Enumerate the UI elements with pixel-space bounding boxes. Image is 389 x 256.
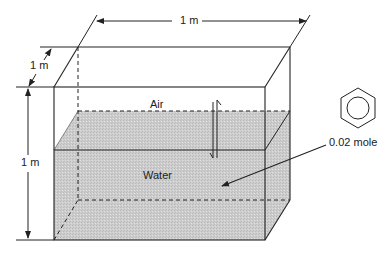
water-label: Water	[143, 170, 172, 181]
water-volume	[54, 111, 290, 240]
height-label: 1 m	[21, 157, 39, 168]
solute-amount-label: 0.02 mole	[329, 137, 377, 148]
tank-diagram: 1 m 1 m 1 m Air Water 0.02 mole	[0, 0, 389, 256]
width-label: 1 m	[180, 15, 198, 26]
diagram-graphic	[0, 0, 389, 256]
air-label: Air	[150, 99, 163, 110]
benzene-icon	[341, 88, 375, 128]
depth-label: 1 m	[30, 60, 48, 71]
